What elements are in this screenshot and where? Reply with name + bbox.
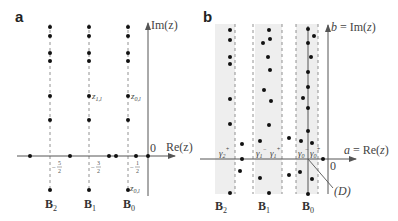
panel-b: b b = Im(z) a = Re(z) 0 (D)	[200, 8, 389, 215]
figure: a Im(z) Re(z) 0 z1,l z0,l z0,l −52 −32 −…	[0, 0, 398, 221]
z0-label: z0,l	[130, 91, 141, 102]
re-axis-label-a: Re(z)	[166, 140, 193, 154]
im-axis-label-b: b = Im(z)	[331, 20, 376, 34]
svg-text:5: 5	[58, 160, 61, 166]
z1-label: z1,l	[91, 91, 102, 102]
svg-text:−: −	[130, 164, 134, 172]
tick-labels-a: −52 −32 −12	[52, 160, 140, 174]
svg-text:−: −	[52, 164, 56, 172]
svg-text:2: 2	[136, 168, 139, 174]
panel-a-label: a	[15, 8, 24, 25]
svg-text:2: 2	[97, 168, 100, 174]
im-axis-label-a: Im(z)	[151, 18, 178, 32]
svg-text:1: 1	[136, 160, 139, 166]
strip-label-b2-b: B2	[215, 199, 227, 215]
svg-text:3: 3	[97, 160, 100, 166]
strip-label-b1-a: B1	[84, 197, 96, 213]
origin-label-a: 0	[150, 141, 156, 155]
z0-neg-label: z0,l	[129, 183, 140, 194]
svg-text:−: −	[91, 164, 95, 172]
strip-b1	[255, 24, 282, 194]
line-d-label: (D)	[334, 184, 351, 198]
strip-label-b2-a: B2	[45, 197, 57, 213]
svg-text:2: 2	[58, 168, 61, 174]
strip-label-b0-b: B0	[302, 199, 314, 215]
strip-label-b0-a: B0	[123, 197, 135, 213]
re-axis-label-b: a = Re(z)	[344, 143, 389, 157]
panel-a: a Im(z) Re(z) 0 z1,l z0,l z0,l −52 −32 −…	[15, 8, 193, 213]
panel-b-label: b	[203, 8, 212, 25]
strip-b2	[215, 24, 235, 194]
strip-label-b1-b: B1	[258, 199, 270, 215]
origin-label-b: 0	[330, 159, 336, 173]
